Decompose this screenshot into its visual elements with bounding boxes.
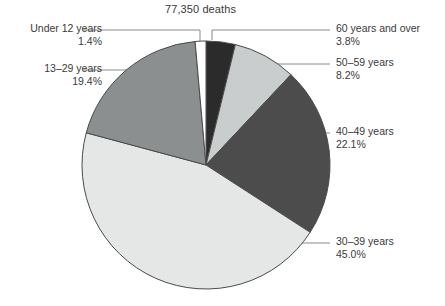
callout-label: 40–49 years (336, 125, 394, 138)
callout-60-years-and-over: 60 years and over 3.8% (336, 22, 420, 47)
callout-under-12-years: Under 12 years 1.4% (4, 22, 102, 47)
callout-30-39-years: 30–39 years 45.0% (336, 235, 394, 260)
callout-value: 45.0% (336, 248, 394, 261)
callout-40-49-years: 40–49 years 22.1% (336, 125, 394, 150)
callout-value: 8.2% (336, 69, 394, 82)
callout-value: 1.4% (4, 35, 102, 48)
callout-label: Under 12 years (4, 22, 102, 35)
callout-label: 50–59 years (336, 56, 394, 69)
pie-slices (82, 41, 330, 289)
callout-value: 22.1% (336, 138, 394, 151)
callout-label: 60 years and over (336, 22, 420, 35)
pie-chart-figure: 77,350 deaths Under 12 years 1.4% 13–29 … (0, 0, 445, 306)
callout-value: 19.4% (4, 75, 102, 88)
callout-13-29-years: 13–29 years 19.4% (4, 62, 102, 87)
callout-label: 30–39 years (336, 235, 394, 248)
callout-50-59-years: 50–59 years 8.2% (336, 56, 394, 81)
callout-value: 3.8% (336, 35, 420, 48)
leader-line-60-plus (212, 30, 330, 40)
callout-label: 13–29 years (4, 62, 102, 75)
